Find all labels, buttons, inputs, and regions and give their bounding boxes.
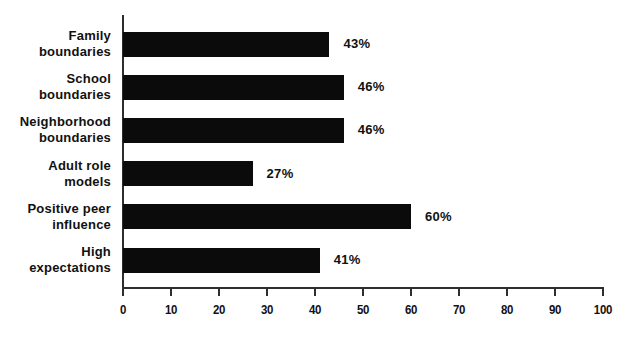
x-tick-label: 0 xyxy=(120,302,126,317)
category-label: Neighborhood boundaries xyxy=(0,114,111,146)
x-tick-label: 80 xyxy=(501,302,513,317)
x-tick-mark xyxy=(122,287,124,296)
x-tick-mark xyxy=(458,287,460,296)
x-tick-mark xyxy=(506,287,508,296)
x-tick-label: 40 xyxy=(309,302,321,317)
bar xyxy=(123,204,411,229)
category-label: Family boundaries xyxy=(0,28,111,60)
x-tick-mark xyxy=(218,287,220,296)
x-tick-mark xyxy=(554,287,556,296)
x-tick-mark xyxy=(170,287,172,296)
category-label: Positive peer influence xyxy=(0,201,111,233)
category-label: High expectations xyxy=(0,244,111,276)
x-tick-label: 30 xyxy=(261,302,273,317)
category-label: Adult role models xyxy=(0,158,111,190)
x-tick-label: 10 xyxy=(165,302,177,317)
bar xyxy=(123,32,329,57)
x-tick-mark xyxy=(410,287,412,296)
value-label: 27% xyxy=(267,166,294,182)
value-label: 60% xyxy=(425,209,452,225)
category-label: School boundaries xyxy=(0,71,111,103)
x-tick-label: 50 xyxy=(357,302,369,317)
x-tick-mark xyxy=(362,287,364,296)
value-label: 46% xyxy=(358,79,385,95)
bar xyxy=(123,161,253,186)
x-tick-label: 20 xyxy=(213,302,225,317)
x-tick-mark xyxy=(314,287,316,296)
value-label: 41% xyxy=(334,252,361,268)
bar xyxy=(123,118,344,143)
value-label: 46% xyxy=(358,122,385,138)
bar xyxy=(123,248,320,273)
x-tick-label: 90 xyxy=(549,302,561,317)
horizontal-bar-chart: Family boundaries43%School boundaries46%… xyxy=(0,0,636,339)
x-tick-mark xyxy=(266,287,268,296)
x-tick-label: 60 xyxy=(405,302,417,317)
x-tick-label: 70 xyxy=(453,302,465,317)
x-tick-label: 100 xyxy=(594,302,612,317)
bar xyxy=(123,75,344,100)
value-label: 43% xyxy=(343,36,370,52)
x-tick-mark xyxy=(602,287,604,296)
